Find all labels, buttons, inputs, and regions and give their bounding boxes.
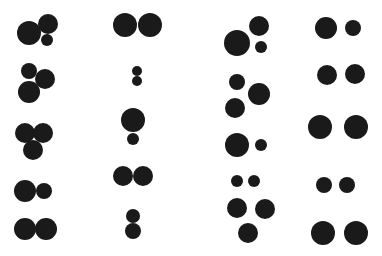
dot	[15, 123, 35, 143]
dot	[225, 98, 245, 118]
dot	[41, 34, 53, 46]
dot	[317, 65, 337, 85]
dot	[138, 13, 162, 37]
dot-group-c3-r1	[224, 16, 269, 56]
dot-group-c1-r4	[14, 180, 52, 202]
dot	[133, 166, 153, 186]
dot	[127, 133, 139, 145]
dot	[35, 218, 57, 240]
dot	[17, 21, 41, 45]
dot	[344, 221, 368, 245]
dot-group-c1-r5	[14, 218, 57, 240]
dot-group-c4-r2	[317, 64, 365, 85]
dot	[339, 177, 355, 193]
dot	[125, 223, 141, 239]
dot	[344, 115, 368, 139]
dot-group-c4-r5	[311, 221, 368, 245]
dot	[113, 13, 137, 37]
dot	[345, 20, 361, 36]
dot	[23, 140, 43, 160]
dot-group-c1-r1	[17, 14, 58, 46]
dot	[224, 30, 250, 56]
dot	[248, 83, 270, 105]
dot	[225, 133, 249, 157]
dot	[315, 17, 337, 39]
dot-group-c2-r1	[113, 13, 162, 37]
dot	[311, 221, 335, 245]
dot-pattern-figure	[0, 0, 382, 256]
dot-group-c3-r4	[231, 175, 260, 187]
dot	[345, 64, 365, 84]
dot	[14, 218, 36, 240]
dot	[36, 183, 52, 199]
dot	[255, 139, 267, 151]
dot-groups-svg	[0, 0, 382, 256]
dot	[255, 41, 267, 53]
dot	[113, 166, 133, 186]
dot-group-c4-r4	[316, 177, 355, 193]
dot	[14, 180, 36, 202]
dot	[229, 74, 245, 90]
dot-group-c2-r2	[132, 66, 142, 86]
dot	[38, 14, 58, 34]
dot-group-c4-r3	[308, 115, 368, 139]
dot	[121, 108, 145, 132]
dot	[255, 199, 275, 219]
dot	[18, 81, 40, 103]
dot-group-c1-r2	[18, 63, 55, 103]
dot	[249, 16, 269, 36]
dot-group-c2-r5	[125, 209, 141, 239]
dot	[132, 76, 142, 86]
dot	[132, 66, 142, 76]
dot	[33, 123, 53, 143]
dot-group-c4-r1	[315, 17, 361, 39]
dot	[126, 209, 140, 223]
dot	[231, 175, 243, 187]
dot-group-c3-r2	[225, 74, 270, 118]
dot-group-c2-r3	[121, 108, 145, 145]
dot-group-c2-r4	[113, 166, 153, 186]
dot	[238, 223, 258, 243]
dot-group-c3-r5	[227, 198, 275, 243]
dot	[227, 198, 247, 218]
dot	[316, 177, 332, 193]
dot-group-c3-r3	[225, 133, 267, 157]
dot	[21, 63, 37, 79]
dot	[308, 115, 332, 139]
dot-group-c1-r3	[15, 123, 53, 160]
dot	[248, 175, 260, 187]
